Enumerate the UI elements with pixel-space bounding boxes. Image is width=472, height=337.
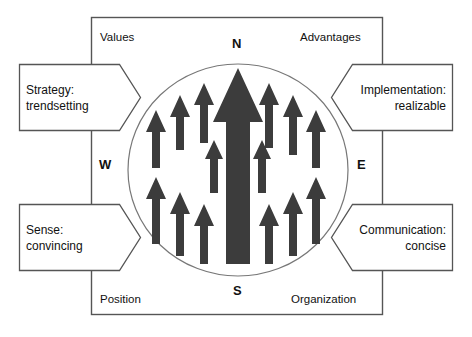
callout-sense-line2: convincing <box>26 239 83 254</box>
arrow-11 <box>194 204 214 264</box>
corner-label-top-right: Advantages <box>300 30 361 45</box>
callout-communication-line2: concise <box>343 239 446 254</box>
compass-label-west: W <box>99 157 111 174</box>
callout-implementation-line1: Implementation: <box>350 83 446 98</box>
corner-label-top-left: Values <box>100 30 134 45</box>
arrow-10 <box>170 192 190 256</box>
callout-sense-line1: Sense: <box>26 223 63 238</box>
callout-communication-line1: Communication: <box>343 223 446 238</box>
callout-strategy-line1: Strategy: <box>26 83 74 98</box>
corner-label-bottom-right: Organization <box>291 292 356 307</box>
arrow-13 <box>283 192 303 256</box>
corner-label-bottom-left: Position <box>100 292 141 307</box>
diagram-canvas: Values Advantages Position Organization … <box>0 0 472 337</box>
arrow-field <box>146 68 326 264</box>
compass-label-south: S <box>233 283 242 300</box>
arrow-06 <box>306 110 326 168</box>
arrow-09 <box>146 177 166 244</box>
arrow-04 <box>259 83 279 148</box>
arrow-01 <box>146 110 166 168</box>
arrow-02 <box>170 95 190 150</box>
callout-strategy-line2: trendsetting <box>26 99 89 114</box>
arrow-03 <box>194 83 214 143</box>
callout-implementation-line2: realizable <box>350 99 446 114</box>
compass-label-east: E <box>357 157 366 174</box>
arrow-07 <box>205 140 223 193</box>
arrow-14 <box>306 177 326 244</box>
arrow-main <box>213 68 263 264</box>
compass-label-north: N <box>232 36 241 53</box>
arrow-12 <box>259 204 279 264</box>
arrow-05 <box>283 95 303 155</box>
